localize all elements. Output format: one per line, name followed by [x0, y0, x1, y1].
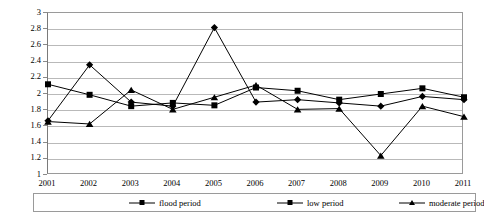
legend-marker-icon — [399, 198, 425, 207]
data-point-marker — [295, 88, 301, 94]
y-axis-tick — [43, 174, 47, 175]
data-point-marker — [128, 103, 134, 109]
y-tick-label: 1 — [0, 170, 41, 179]
data-point-marker — [377, 152, 385, 158]
x-tick-label: 2004 — [152, 179, 192, 188]
data-point-marker — [211, 24, 218, 31]
y-tick-label: 2.2 — [0, 72, 41, 81]
series-moderate-period — [44, 82, 468, 159]
x-tick-label: 2005 — [193, 179, 233, 188]
y-tick-label: 1.8 — [0, 105, 41, 114]
data-point-marker — [170, 100, 176, 106]
data-point-marker — [127, 87, 135, 93]
legend-label: flood period — [159, 198, 201, 207]
y-tick-label: 2 — [0, 89, 41, 98]
data-point-marker — [45, 81, 51, 87]
data-point-marker — [461, 94, 467, 100]
legend-label: moderate period — [429, 198, 484, 207]
data-point-marker — [460, 114, 468, 120]
series-line — [48, 85, 464, 155]
data-point-marker — [294, 96, 301, 103]
data-point-marker — [211, 102, 217, 108]
plot-area — [47, 12, 463, 174]
data-point-marker — [377, 103, 384, 110]
y-tick-label: 1.2 — [0, 153, 41, 162]
y-tick-label: 2.8 — [0, 24, 41, 33]
x-tick-label: 2008 — [318, 179, 358, 188]
legend-item-moderate-period[interactable]: moderate period — [399, 198, 484, 207]
data-point-marker — [252, 99, 259, 106]
x-tick-label: 2011 — [443, 179, 483, 188]
x-tick-label: 2009 — [360, 179, 400, 188]
x-tick-label: 2007 — [277, 179, 317, 188]
y-tick-label: 2.6 — [0, 40, 41, 49]
y-tick-label: 3 — [0, 8, 41, 17]
y-tick-label: 2.4 — [0, 56, 41, 65]
legend-item-low-period[interactable]: low period — [277, 198, 344, 207]
x-tick-label: 2003 — [110, 179, 150, 188]
y-tick-label: 1.4 — [0, 137, 41, 146]
data-point-marker — [419, 85, 425, 91]
x-tick-label: 2002 — [69, 179, 109, 188]
legend-item-flood-period[interactable]: flood period — [129, 198, 201, 207]
legend-marker-icon — [277, 198, 303, 207]
series-layer — [48, 13, 464, 175]
data-point-marker — [336, 97, 342, 103]
x-tick-label: 2006 — [235, 179, 275, 188]
legend-marker-icon — [129, 198, 155, 207]
chart-legend: flood periodlow periodmoderate period — [33, 193, 476, 212]
data-point-marker — [87, 92, 93, 98]
legend-label: low period — [307, 198, 344, 207]
plot-wrapper: 32.82.62.42.221.81.61.41.21 200120022003… — [0, 0, 483, 190]
data-point-marker — [378, 91, 384, 97]
x-tick-label: 2010 — [401, 179, 441, 188]
y-tick-label: 1.6 — [0, 121, 41, 130]
x-tick-label: 2001 — [27, 179, 67, 188]
data-point-marker — [211, 94, 219, 100]
data-point-marker — [419, 103, 427, 109]
data-point-marker — [419, 93, 426, 100]
data-point-marker — [169, 106, 177, 112]
